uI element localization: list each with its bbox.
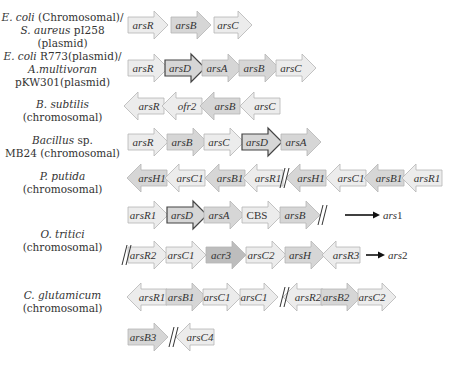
gene-arsR: arsR [128, 54, 168, 82]
gene-arsB1: arsB1 [205, 164, 245, 192]
gene-label: arsR3 [333, 249, 360, 261]
gene-arsR3: arsR3 [322, 241, 360, 269]
gene-label: arsB [176, 19, 197, 31]
gene-arsR: arsR [128, 11, 168, 39]
gene-label: arsC1 [168, 249, 195, 261]
gene-arsH1: arsH1 [286, 164, 326, 192]
gene-label: arsC1 [241, 291, 268, 303]
gene-arsC2: arsC2 [246, 241, 286, 269]
operon-pointer: ars2 [366, 249, 408, 261]
gene-arsC1: arsC1 [166, 241, 206, 269]
gene-arsR1: arsR1 [402, 164, 442, 192]
gene-label: arsC1 [177, 172, 204, 184]
gene-arsH1: arsH1 [127, 164, 167, 192]
gene-label: arsB1 [376, 172, 402, 184]
gene-label: arsH1 [297, 172, 325, 184]
gene-label: arsR2 [295, 291, 322, 303]
gene-label: arsB [285, 209, 306, 221]
gene-label: arsR [133, 19, 154, 31]
gene-arsC1: arsC1 [203, 283, 241, 311]
gene-arsR1: arsR1 [243, 164, 283, 192]
gene-arsB2: arsB2 [321, 283, 361, 311]
gene-arsR1: arsR1 [128, 201, 168, 229]
gene-arsH: arsH [285, 241, 325, 269]
operon-pointer: ars1 [345, 209, 403, 221]
gene-label: arsH [289, 249, 312, 261]
gene-label: arsR1 [130, 209, 156, 221]
gene-arsA: arsA [204, 201, 244, 229]
gene-ofr2: ofr2 [162, 92, 202, 120]
operon-label: ars2 [388, 249, 408, 261]
gene-arsB: arsB [167, 128, 207, 156]
arrowhead-icon [378, 252, 385, 259]
gene-arsB: arsB [171, 11, 211, 39]
gene-label: arsB3 [130, 331, 157, 343]
gene-arsC4: arsC4 [176, 323, 214, 351]
gene-arsC1: arsC1 [240, 283, 278, 311]
gene-label: arsR1 [414, 172, 440, 184]
gene-arrows-layer: arsRarsBarsCarsRarsDarsAarsBarsCarsRofr2… [0, 0, 453, 367]
gene-acr3: acr3 [206, 241, 246, 269]
gene-label: arsB1 [168, 291, 194, 303]
operon-label: ars1 [383, 209, 403, 221]
gene-label: arsC2 [359, 291, 386, 303]
gene-arsD: arsD [242, 128, 282, 156]
gene-label: ofr2 [178, 100, 197, 112]
gene-arsC1: arsC1 [326, 164, 366, 192]
gene-label: arsA [207, 62, 228, 74]
gene-label: arsC [208, 136, 230, 148]
gene-label: arsB [215, 100, 236, 112]
gene-label: arsH1 [138, 172, 166, 184]
gene-arsC: arsC [204, 128, 244, 156]
gene-arsC: arsC [276, 54, 316, 82]
gene-label: arsD [246, 136, 268, 148]
gene-label: arsB2 [323, 291, 350, 303]
gene-arsD: arsD [167, 201, 207, 229]
gene-label: arsC1 [204, 291, 231, 303]
gene-arsC2: arsC2 [358, 283, 396, 311]
gene-label: arsR1 [139, 291, 165, 303]
gene-label: arsD [169, 62, 191, 74]
gene-label: arsC [254, 100, 276, 112]
gene-label: arsC1 [338, 172, 365, 184]
arrowhead-icon [373, 212, 380, 219]
gene-arsR1: arsR1 [127, 283, 167, 311]
gene-label: arsR1 [255, 172, 281, 184]
gene-arsC: arsC [240, 92, 280, 120]
gene-label: arsA [286, 136, 307, 148]
gene-label: arsC2 [248, 249, 275, 261]
gene-label: arsA [209, 209, 230, 221]
gene-label: arsR [133, 62, 154, 74]
gene-label: arsB1 [217, 172, 243, 184]
gene-arsB: arsB [280, 201, 320, 229]
gene-label: arsB [244, 62, 265, 74]
gene-CBS: CBS [242, 201, 282, 229]
gene-label: arsD [171, 209, 193, 221]
gene-label: arsC4 [187, 331, 214, 343]
gene-arsR: arsR [124, 92, 164, 120]
gene-label: arsR2 [130, 249, 157, 261]
gene-arsA: arsA [281, 128, 321, 156]
gene-arsR2: arsR2 [128, 241, 168, 269]
gene-label: arsR [133, 136, 154, 148]
gene-arsC: arsC [214, 11, 252, 39]
gene-label: arsB [172, 136, 193, 148]
gene-arsB1: arsB1 [166, 283, 206, 311]
gene-arsA: arsA [202, 54, 242, 82]
gene-label: acr3 [211, 249, 232, 261]
gene-arsD: arsD [165, 54, 205, 82]
gene-arsC1: arsC1 [165, 164, 205, 192]
gene-arsR: arsR [128, 128, 168, 156]
gene-arsB3: arsB3 [128, 323, 168, 351]
gene-label: arsC [217, 19, 239, 31]
gene-label: arsR [139, 100, 160, 112]
gene-arsB: arsB [239, 54, 279, 82]
gene-label: arsC [280, 62, 302, 74]
ars-operon-diagram: E. coli (Chromosomal)/ S. aureus pI258 (… [0, 0, 453, 367]
gene-arsB1: arsB1 [364, 164, 404, 192]
gene-arsB: arsB [200, 92, 240, 120]
gene-label: CBS [247, 209, 268, 221]
